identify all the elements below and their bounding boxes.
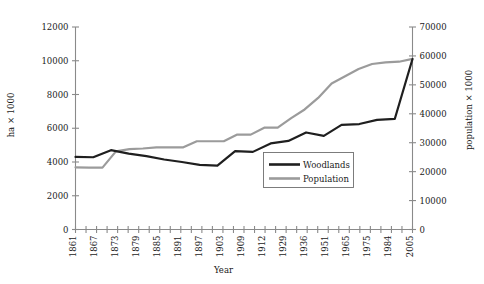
x-tick-label: 1903 (215, 236, 225, 258)
right-axis-title: population × 1000 (464, 65, 474, 155)
right-tick-label: 0 (420, 225, 425, 235)
right-tick-label: 50000 (420, 80, 447, 90)
x-tick-label: 1897 (194, 236, 204, 258)
legend-label-woodlands: Woodlands (303, 160, 350, 170)
right-tick-label: 40000 (420, 109, 447, 119)
right-tick-label: 20000 (420, 167, 447, 177)
left-tick-label: 2000 (47, 191, 69, 201)
chart-legend: Woodlands Population (264, 153, 354, 188)
left-axis-ticks: 020004000600080001000012000 (41, 22, 79, 235)
line-chart-canvas: 020004000600080001000012000 010000200003… (0, 0, 484, 284)
left-tick-label: 6000 (47, 123, 69, 133)
right-tick-label: 30000 (420, 138, 447, 148)
right-tick-label: 70000 (420, 22, 447, 32)
x-axis-title: Year (214, 265, 233, 275)
x-tick-label: 1861 (68, 236, 78, 258)
right-axis-ticks: 010000200003000040000500006000070000 (409, 22, 447, 235)
right-y-axis: 010000200003000040000500006000070000 (409, 22, 447, 235)
x-axis: 1861186718731879188518911897190319091912… (68, 226, 415, 257)
x-tick-label: 1873 (110, 236, 120, 258)
x-tick-label: 1965 (341, 236, 351, 258)
left-tick-label: 8000 (47, 90, 69, 100)
x-tick-label: 1879 (131, 236, 141, 258)
x-tick-label: 1984 (383, 236, 393, 258)
x-tick-label: 1909 (236, 236, 246, 258)
x-tick-label: 1891 (173, 236, 183, 258)
legend-label-population: Population (303, 174, 349, 184)
left-tick-label: 0 (63, 225, 68, 235)
x-tick-label: 2005 (405, 236, 415, 258)
x-tick-label: 1912 (257, 236, 267, 258)
x-axis-tick-labels: 1861186718731879188518911897190319091912… (68, 236, 415, 258)
left-y-axis: 020004000600080001000012000 (41, 22, 79, 235)
left-tick-label: 12000 (41, 22, 68, 32)
x-tick-label: 1975 (362, 236, 372, 258)
x-tick-label: 1936 (299, 236, 309, 258)
left-tick-label: 10000 (41, 56, 68, 66)
x-tick-label: 1951 (320, 236, 330, 258)
chart-figure: 020004000600080001000012000 010000200003… (0, 0, 484, 284)
x-tick-label: 1867 (89, 236, 99, 258)
right-tick-label: 10000 (420, 196, 447, 206)
x-tick-label: 1929 (278, 236, 288, 258)
left-tick-label: 4000 (47, 157, 69, 167)
left-axis-title: ha × 1000 (6, 85, 16, 145)
right-tick-label: 60000 (420, 51, 447, 61)
x-tick-label: 1885 (152, 236, 162, 258)
